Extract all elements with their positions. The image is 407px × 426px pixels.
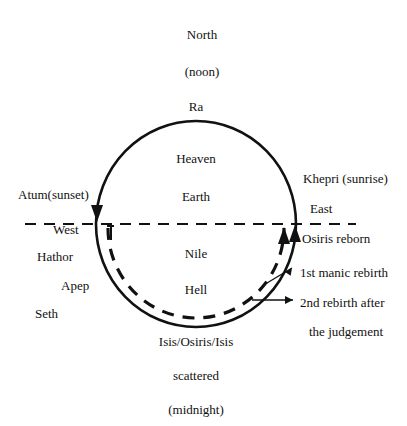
- label-atum-sunset: Atum(sunset): [18, 187, 89, 202]
- label-first-manic-rebirth: 1st manic rebirth: [300, 265, 388, 280]
- label-isis-osiris-isis: Isis/Osiris/Isis: [159, 334, 233, 349]
- label-hathor: Hathor: [37, 249, 73, 264]
- label-khepri-sunrise: Khepri (sunrise): [303, 171, 388, 186]
- label-nile: Nile: [185, 246, 207, 261]
- label-west: West: [53, 222, 79, 237]
- label-hell: Hell: [185, 282, 207, 297]
- label-the-judgement: the judgement: [309, 324, 383, 339]
- label-second-rebirth: 2nd rebirth after: [300, 295, 384, 310]
- label-earth: Earth: [182, 189, 210, 204]
- label-east: East: [310, 201, 332, 216]
- label-noon: (noon): [185, 64, 220, 79]
- label-osiris-reborn: Osiris reborn: [302, 231, 370, 246]
- sunrise-solid-arrow-icon: [289, 225, 301, 242]
- label-apep: Apep: [61, 278, 89, 293]
- label-north: North: [187, 27, 217, 42]
- second-rebirth-arrowhead-icon: [285, 296, 293, 304]
- sunset-arrow-icon: [91, 205, 103, 222]
- label-midnight: (midnight): [168, 402, 224, 417]
- label-seth: Seth: [35, 306, 58, 321]
- label-scattered: scattered: [173, 368, 219, 383]
- label-heaven: Heaven: [176, 151, 216, 166]
- sunrise-dashed-arrow-icon: [278, 227, 290, 244]
- diagram-canvas: North (noon) Ra Heaven Earth Nile Hell I…: [0, 0, 407, 426]
- label-ra: Ra: [189, 99, 203, 114]
